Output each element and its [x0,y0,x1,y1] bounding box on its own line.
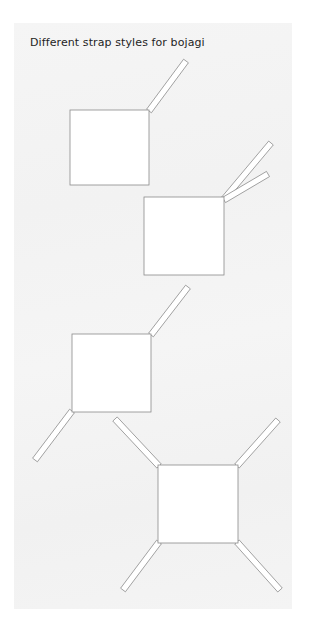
diagram-four-corner-straps [113,417,282,592]
diagram-single-strap [70,59,188,185]
strap-2 [33,409,75,462]
diagram-two-opposite-straps [33,285,191,462]
bojagi-diagrams [0,0,310,618]
strap-1 [147,59,189,113]
strap-4 [235,540,282,592]
strap-2 [235,418,280,468]
cloth-square [158,465,238,543]
strap-1 [149,285,191,337]
strap-1 [113,417,161,468]
cloth-square [70,110,149,185]
strap-3 [121,540,162,592]
cloth-square [144,197,224,275]
diagram-double-strap [144,141,273,275]
cloth-square [72,334,151,412]
strap-1 [222,141,274,201]
